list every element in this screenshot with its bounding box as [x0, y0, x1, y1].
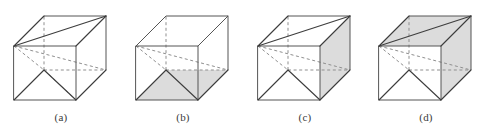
hidden-fold-lines-b: [136, 46, 228, 70]
figure-panel-d: (d): [365, 0, 487, 133]
shaded-faces-group-c: [320, 16, 350, 100]
panel-label-d: (d): [365, 110, 487, 124]
cube-figure-panels: (a): [0, 0, 487, 133]
hidden-fold-lines-a: [14, 46, 106, 100]
figure-panel-a: (a): [0, 0, 122, 133]
panel-label-b: (b): [122, 110, 244, 124]
cube-diagram-a: [0, 0, 122, 108]
figure-panel-b: (b): [122, 0, 244, 133]
panel-label-a: (a): [0, 110, 122, 124]
figure-panel-c: (c): [244, 0, 366, 133]
cube-diagram-b: [122, 0, 244, 108]
shaded-face-right-c: [320, 16, 350, 100]
cube-diagram-c: [244, 0, 366, 108]
cube-diagram-d: [365, 0, 487, 108]
panel-label-c: (c): [244, 110, 366, 124]
